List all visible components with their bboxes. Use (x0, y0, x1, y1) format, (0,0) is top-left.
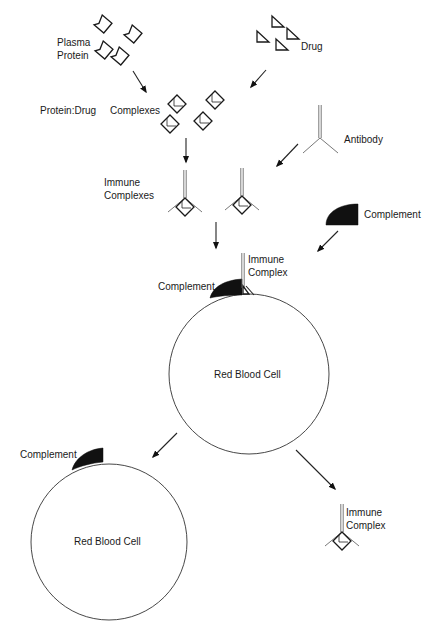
drug-icon (272, 16, 284, 27)
released-immune-complex-label-1: Immune (346, 507, 383, 518)
plasma-protein-label-1: Plasma (57, 37, 91, 48)
immune-complex-icon (168, 170, 202, 216)
cell-complement-label: Complement (20, 449, 77, 460)
protein-drug-complex-icon (161, 115, 179, 133)
drug-group: Drug (257, 16, 323, 52)
complexes-label: Complexes (110, 105, 160, 116)
bound-immune-complex-icon (243, 286, 249, 294)
arrow-rbc-to-rbc2 (153, 433, 177, 457)
immune-complexes-label-2: Complexes (104, 190, 154, 201)
immune-complexes-label-1: Immune (104, 177, 141, 188)
antibody-group: Antibody (303, 105, 383, 153)
drug-label: Drug (301, 41, 323, 52)
red-blood-cell-2-group: Complement Red Blood Cell (20, 448, 187, 620)
red-blood-cell-1-label: Red Blood Cell (214, 369, 281, 380)
released-immune-complex-group: Immune Complex (325, 504, 385, 550)
protein-drug-complex-icon (206, 91, 224, 109)
antibody-label: Antibody (344, 134, 383, 145)
arrow-protein-to-complex (133, 71, 146, 92)
arrow-antibody-to-immune (277, 144, 298, 166)
protein-drug-complexes-group: Protein:Drug Complexes (40, 91, 224, 133)
plasma-protein-icon (93, 14, 113, 34)
arrow-rbc-to-released-complex (296, 450, 335, 489)
drug-icon (257, 31, 269, 42)
complement-icon (326, 204, 358, 225)
immune-complex-icon (225, 168, 259, 214)
protein-drug-complex-icon (168, 95, 186, 113)
red-blood-cell-1-group: Immune Complex Complement Red Blood Cell (158, 253, 329, 454)
bound-immune-complex-label-2: Complex (248, 267, 287, 278)
plasma-protein-label-2: Protein (57, 50, 89, 61)
antibody-icon (303, 105, 338, 153)
bound-complement-icon (210, 279, 242, 298)
protein-drug-label: Protein:Drug (40, 105, 96, 116)
arrow-drug-to-complex (251, 70, 266, 87)
plasma-protein-icon (123, 24, 143, 44)
protein-drug-complex-icon (194, 112, 212, 130)
bound-complement-label: Complement (158, 281, 215, 292)
complement-label: Complement (364, 209, 421, 220)
bound-immune-complex-label-1: Immune (248, 254, 285, 265)
red-blood-cell-2-label: Red Blood Cell (74, 536, 141, 547)
plasma-protein-group: Plasma Protein (57, 14, 143, 66)
immune-complex-diagram: Plasma Protein Drug Protein:Drug Complex… (0, 0, 438, 635)
released-immune-complex-label-2: Complex (346, 520, 385, 531)
drug-icon (287, 28, 299, 39)
drug-icon (276, 39, 288, 50)
complement-group: Complement (326, 204, 421, 225)
immune-complexes-group: Immune Complexes (104, 168, 259, 216)
arrow-complement-to-rbc (318, 231, 338, 251)
